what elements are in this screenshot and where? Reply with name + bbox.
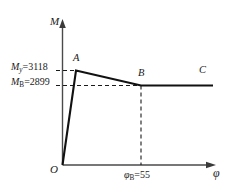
moment-curvature-curve (63, 71, 214, 166)
annotation-phib-subscript: B (130, 174, 135, 182)
moment-curvature-figure: M φ O A B C My=3118 MB=2899 φB=55 (0, 0, 234, 195)
annotation-phib: φB=55 (124, 170, 150, 180)
point-label-c: C (199, 65, 206, 76)
point-label-a: A (73, 53, 79, 64)
point-label-b: B (138, 68, 144, 79)
annotation-mb: MB=2899 (11, 77, 50, 87)
annotation-mb-value: 2899 (30, 76, 50, 87)
annotation-my: My=3118 (11, 62, 48, 72)
annotation-mb-subscript: B (19, 81, 24, 89)
annotation-phib-symbol: φ (124, 169, 130, 180)
annotation-my-subscript: y (19, 66, 22, 74)
figure-canvas (0, 0, 234, 195)
x-axis-label: φ (213, 167, 220, 179)
y-axis-arrowhead (59, 19, 66, 28)
origin-label: O (50, 164, 58, 175)
annotation-my-value: 3118 (28, 61, 48, 72)
y-axis-label: M (50, 16, 59, 27)
annotation-phib-value: 55 (140, 169, 150, 180)
